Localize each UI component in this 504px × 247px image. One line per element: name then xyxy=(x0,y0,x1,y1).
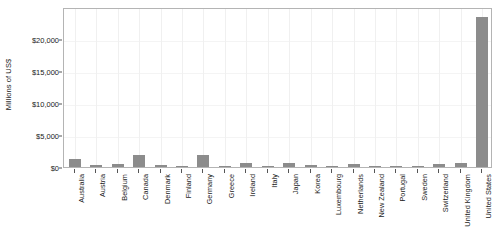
vertical-gridline xyxy=(354,9,355,167)
y-axis-tick-mark xyxy=(59,136,62,137)
x-axis-tick-label: Korea xyxy=(313,174,322,194)
bar xyxy=(176,166,188,168)
x-axis-tick-label: Canada xyxy=(141,174,150,200)
x-axis-tick-label: Australia xyxy=(77,174,86,203)
x-axis-tick-label: Luxembourg xyxy=(334,174,343,215)
vertical-gridline xyxy=(268,9,269,167)
y-axis-tick-mark xyxy=(59,72,62,73)
y-axis-tick-label: $15,000 xyxy=(15,68,59,77)
vertical-gridline xyxy=(161,9,162,167)
bar xyxy=(476,17,488,167)
y-axis-tick-mark xyxy=(59,40,62,41)
x-axis-tick-mark xyxy=(331,169,332,173)
bar xyxy=(262,166,274,168)
bar xyxy=(433,164,445,167)
horizontal-gridline xyxy=(64,137,491,138)
x-axis-tick-label: Germany xyxy=(205,174,214,204)
vertical-gridline xyxy=(246,9,247,167)
bar xyxy=(348,164,360,167)
vertical-gridline xyxy=(311,9,312,167)
bar xyxy=(112,164,124,167)
x-axis-ticks xyxy=(63,169,492,173)
y-axis-tick-mark xyxy=(59,104,62,105)
x-axis-tick-label: Italy xyxy=(270,174,279,188)
horizontal-gridline xyxy=(64,41,491,42)
vertical-gridline xyxy=(439,9,440,167)
y-axis-tick-label: $5,000 xyxy=(15,132,59,141)
y-axis-tick-mark xyxy=(59,168,62,169)
plot-area xyxy=(63,8,492,168)
x-axis-tick-label: Austria xyxy=(98,174,107,197)
bar xyxy=(326,166,338,168)
bar xyxy=(219,166,231,168)
x-axis-tick-mark xyxy=(181,169,182,173)
x-axis-tick-mark xyxy=(395,169,396,173)
x-axis-tick-mark xyxy=(95,169,96,173)
y-axis-tick-label: $0 xyxy=(15,164,59,173)
vertical-gridline xyxy=(225,9,226,167)
x-axis-tick-mark xyxy=(417,169,418,173)
bar xyxy=(283,163,295,167)
x-axis-tick-label: Sweden xyxy=(420,174,429,201)
y-axis-title-text: Millions of US$ xyxy=(5,58,14,110)
vertical-gridline xyxy=(289,9,290,167)
bar-chart-figure: Millions of US$ $0$5,000$10,000$15,000$2… xyxy=(0,0,504,247)
y-axis-tick-labels: $0$5,000$10,000$15,000$20,000 xyxy=(14,0,59,247)
x-axis-tick-mark xyxy=(481,169,482,173)
bar xyxy=(90,165,102,167)
vertical-gridline xyxy=(96,9,97,167)
vertical-gridline xyxy=(75,9,76,167)
bar xyxy=(305,165,317,167)
x-axis-tick-mark xyxy=(117,169,118,173)
x-axis-tick-mark xyxy=(288,169,289,173)
x-axis-tick-label: United States xyxy=(484,174,493,218)
bar xyxy=(69,159,81,167)
x-axis-tick-mark xyxy=(138,169,139,173)
bar xyxy=(369,166,381,168)
x-axis-tick-label: Belgium xyxy=(120,174,129,201)
vertical-gridline xyxy=(396,9,397,167)
x-axis-tick-label: Netherlands xyxy=(356,174,365,214)
vertical-gridline xyxy=(182,9,183,167)
vertical-gridline xyxy=(461,9,462,167)
x-axis-tick-label: Japan xyxy=(291,174,300,194)
x-axis-tick-mark xyxy=(202,169,203,173)
x-axis-tick-label: Greece xyxy=(227,174,236,198)
x-axis-tick-label: Ireland xyxy=(248,174,257,197)
x-axis-tick-mark xyxy=(74,169,75,173)
x-axis-tick-mark xyxy=(460,169,461,173)
vertical-gridline xyxy=(118,9,119,167)
vertical-gridline xyxy=(139,9,140,167)
horizontal-gridline xyxy=(64,73,491,74)
x-axis-tick-mark xyxy=(310,169,311,173)
vertical-gridline xyxy=(375,9,376,167)
x-axis-tick-label: Portugal xyxy=(398,174,407,202)
x-axis-tick-label: New Zealand xyxy=(377,174,386,218)
bar xyxy=(133,155,145,167)
x-axis-tick-mark xyxy=(224,169,225,173)
y-axis-tick-label: $10,000 xyxy=(15,100,59,109)
y-axis-tick-label: $20,000 xyxy=(15,36,59,45)
x-axis-tick-label: Denmark xyxy=(163,174,172,204)
bar xyxy=(197,155,209,167)
vertical-gridline xyxy=(203,9,204,167)
bar xyxy=(455,163,467,167)
x-axis-tick-mark xyxy=(267,169,268,173)
x-axis-tick-label: Finland xyxy=(184,174,193,198)
bar xyxy=(390,166,402,168)
bar xyxy=(412,166,424,168)
x-axis-tick-mark xyxy=(245,169,246,173)
x-axis-tick-label: Switzerland xyxy=(441,174,450,212)
x-axis-tick-mark xyxy=(160,169,161,173)
horizontal-gridline xyxy=(64,105,491,106)
bar xyxy=(240,163,252,167)
x-axis-tick-label: United Kingdom xyxy=(463,174,472,227)
vertical-gridline xyxy=(332,9,333,167)
vertical-gridline xyxy=(418,9,419,167)
x-axis-tick-labels: AustraliaAustriaBelgiumCanadaDenmarkFinl… xyxy=(63,174,492,247)
x-axis-tick-mark xyxy=(438,169,439,173)
bar xyxy=(155,165,167,167)
x-axis-tick-mark xyxy=(353,169,354,173)
x-axis-tick-mark xyxy=(374,169,375,173)
